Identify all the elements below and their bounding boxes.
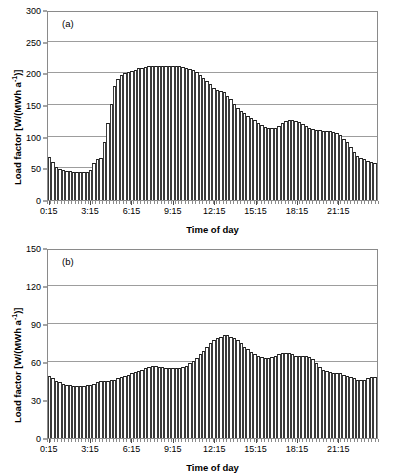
x-tick-minor [99, 201, 100, 204]
x-tick-mark [90, 439, 91, 443]
x-tick-minor [333, 201, 334, 204]
x-tick-minor [133, 439, 134, 442]
x-tick-minor [119, 439, 120, 442]
x-tick-minor [275, 201, 276, 204]
x-tick-label: 6:15 [123, 206, 141, 216]
x-tick-mark [131, 439, 132, 443]
y-axis-b: 0306090120150 [0, 249, 47, 439]
bar-series-a [48, 12, 377, 200]
x-tick-minor [375, 201, 376, 204]
x-axis-title-a: Time of day [47, 224, 378, 235]
x-tick-minor [161, 201, 162, 204]
chart-panel-b: 0306090120150 (b) 0:153:156:159:1512:151… [0, 238, 394, 476]
x-tick-minor [102, 439, 103, 442]
x-tick-minor [175, 439, 176, 442]
x-tick-mark [297, 201, 298, 205]
y-tick-label: 30 [31, 397, 41, 406]
x-tick-minor [71, 439, 72, 442]
y-axis-title-a-tail: )] [12, 70, 23, 76]
x-tick-minor [92, 439, 93, 442]
x-tick-minor [285, 439, 286, 442]
x-tick-minor [326, 439, 327, 442]
x-tick-minor [102, 201, 103, 204]
x-tick-minor [71, 201, 72, 204]
x-tick-minor [244, 439, 245, 442]
x-tick-minor [199, 439, 200, 442]
x-tick-minor [264, 201, 265, 204]
x-tick-minor [61, 439, 62, 442]
x-tick-minor [233, 439, 234, 442]
x-tick-minor [330, 201, 331, 204]
x-tick-minor [378, 201, 379, 204]
x-tick-minor [161, 439, 162, 442]
x-tick-minor [164, 439, 165, 442]
x-axis-a: 0:153:156:159:1512:1515:1518:1521:15 [47, 201, 378, 217]
x-tick-minor [185, 201, 186, 204]
x-tick-label: 3:15 [81, 206, 99, 216]
x-tick-label: 9:15 [164, 206, 182, 216]
x-tick-minor [137, 201, 138, 204]
x-tick-minor [278, 201, 279, 204]
y-tick-label: 50 [31, 165, 41, 174]
x-tick-minor [281, 439, 282, 442]
y-tick-label: 0 [36, 197, 41, 206]
x-tick-minor [61, 201, 62, 204]
x-tick-minor [309, 201, 310, 204]
x-tick-minor [116, 439, 117, 442]
x-tick-label: 6:15 [123, 444, 141, 454]
x-tick-minor [233, 201, 234, 204]
x-tick-minor [250, 201, 251, 204]
x-tick-mark [297, 439, 298, 443]
x-tick-minor [147, 201, 148, 204]
x-tick-minor [157, 439, 158, 442]
x-tick-label: 18:15 [286, 444, 309, 454]
x-tick-minor [57, 439, 58, 442]
x-tick-minor [144, 201, 145, 204]
x-tick-minor [123, 201, 124, 204]
x-tick-minor [188, 439, 189, 442]
plot-area-a [47, 11, 378, 201]
x-tick-minor [78, 439, 79, 442]
x-tick-minor [164, 201, 165, 204]
x-tick-minor [299, 201, 300, 204]
x-tick-minor [340, 439, 341, 442]
x-tick-minor [268, 201, 269, 204]
x-tick-label: 15:15 [244, 206, 267, 216]
x-tick-minor [223, 201, 224, 204]
x-tick-minor [50, 439, 51, 442]
x-tick-mark [131, 201, 132, 205]
x-tick-minor [195, 439, 196, 442]
x-tick-minor [316, 439, 317, 442]
x-tick-minor [237, 439, 238, 442]
x-tick-minor [247, 201, 248, 204]
x-tick-minor [140, 201, 141, 204]
x-tick-label: 15:15 [244, 444, 267, 454]
x-tick-minor [292, 439, 293, 442]
x-tick-minor [357, 201, 358, 204]
x-tick-minor [306, 439, 307, 442]
x-tick-minor [219, 439, 220, 442]
x-tick-minor [199, 201, 200, 204]
x-tick-minor [216, 439, 217, 442]
x-tick-minor [354, 201, 355, 204]
x-tick-minor [181, 439, 182, 442]
x-tick-minor [154, 201, 155, 204]
y-tick-label: 250 [26, 38, 41, 47]
x-tick-minor [257, 439, 258, 442]
x-tick-minor [216, 201, 217, 204]
x-tick-minor [157, 201, 158, 204]
x-tick-minor [202, 201, 203, 204]
x-tick-minor [85, 201, 86, 204]
x-tick-minor [330, 439, 331, 442]
x-tick-minor [81, 439, 82, 442]
x-tick-minor [316, 201, 317, 204]
x-tick-minor [147, 439, 148, 442]
y-axis-title-b-exponent: -1 [11, 314, 18, 320]
x-tick-minor [364, 201, 365, 204]
x-tick-minor [226, 439, 227, 442]
x-tick-minor [75, 439, 76, 442]
x-tick-minor [271, 201, 272, 204]
x-tick-minor [50, 201, 51, 204]
x-tick-minor [271, 439, 272, 442]
x-tick-minor [54, 201, 55, 204]
